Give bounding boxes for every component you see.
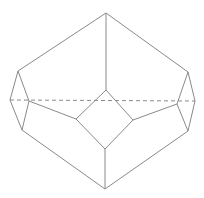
edge-upper-right-to-far-right [188,72,195,101]
edge-square-left-to-square-bottom [76,119,105,149]
edge-top-to-upper-left [18,13,106,71]
edge-inner-left-to-square-left [29,101,76,119]
edge-upper-left-to-inner-left [18,71,29,101]
edge-inner-right-to-lower-right [177,104,188,131]
edge-square-top-to-square-left [76,90,106,119]
edge-square-top-to-square-right [106,90,133,120]
edge-square-right-to-square-bottom [105,120,133,149]
hidden-edges [10,100,195,101]
polyhedron-diagram [0,0,204,198]
hidden-edge-far-left-to-far-right [10,100,195,101]
crystal-polyhedron-drawing [0,0,204,198]
edge-inner-left-to-lower-left [22,101,29,130]
edge-lower-right-to-bottom [105,131,188,189]
edge-lower-left-to-bottom [22,130,105,189]
edge-top-to-upper-right [106,13,188,72]
edge-upper-right-to-inner-right [177,72,188,104]
edge-far-left-to-lower-left [10,100,22,130]
edge-far-right-to-lower-right [188,101,195,131]
edge-inner-right-to-square-right [133,104,177,120]
edge-upper-left-to-far-left [10,71,18,100]
